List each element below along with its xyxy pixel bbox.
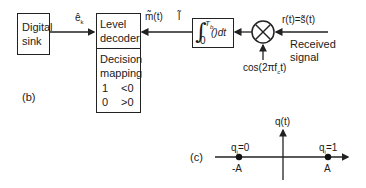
e-hat-label: êk: [75, 11, 84, 29]
point-label-q1: qi=1: [319, 141, 337, 159]
level-decoder-block: Level decoder: [96, 13, 141, 50]
carrier-label: cos(2πfct): [243, 61, 286, 79]
l-bar-label: l̃: [178, 10, 180, 23]
mapping-cond-1: <0: [121, 82, 134, 95]
mapping-cond-0: >0: [121, 96, 134, 109]
multiplier-icon: [252, 21, 274, 43]
decision-mapping-line2: mapping: [100, 67, 142, 80]
tick-plus-a: A: [324, 162, 331, 175]
mapping-bit-0: 0: [102, 96, 108, 109]
decision-mapping-line1: Decision: [100, 53, 142, 66]
digital-sink-line2: sink: [22, 35, 42, 48]
diagram-lines: [0, 0, 366, 188]
received-signal-expression: r(t)=s̃(t): [282, 13, 315, 26]
decision-mapping-block: Decision mapping 1 <0 0 >0: [96, 48, 141, 113]
figure-c-label: (c): [190, 151, 203, 164]
m-hat-label: m̃(t): [145, 10, 163, 23]
received-label-line2: signal: [290, 51, 319, 64]
digital-sink-block: Digital sink: [17, 13, 50, 55]
y-axis-label: q(t): [275, 115, 290, 128]
integrand: ()dt: [211, 27, 226, 38]
figure-b-label: (b): [22, 91, 35, 104]
digital-sink-line1: Digital: [22, 21, 53, 34]
lower-limit: 0: [200, 35, 206, 46]
level-decoder-line1: Level: [100, 18, 126, 31]
level-decoder-line2: decoder: [100, 32, 140, 45]
point-label-q0: qi=0: [231, 141, 249, 159]
received-label-line1: Received: [290, 38, 336, 51]
mapping-bit-1: 1: [102, 82, 108, 95]
tick-minus-a: -A: [232, 162, 242, 175]
integrator-block: ∫ Tb 0 ()dt: [192, 18, 234, 48]
